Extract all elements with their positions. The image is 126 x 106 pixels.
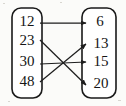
arrow-48-to-13 [40, 44, 86, 82]
range-item-1: 13 [94, 35, 109, 51]
range-item-0: 6 [96, 13, 104, 29]
range-item-3: 20 [94, 75, 109, 91]
mapping-diagram: 12 23 30 48 6 13 15 20 [0, 0, 126, 106]
domain-item-2: 30 [20, 53, 35, 69]
domain-item-3: 48 [20, 73, 35, 89]
domain-item-1: 23 [20, 32, 35, 48]
range-item-2: 15 [94, 53, 109, 69]
domain-item-0: 12 [20, 13, 35, 29]
arrow-group [40, 23, 86, 85]
